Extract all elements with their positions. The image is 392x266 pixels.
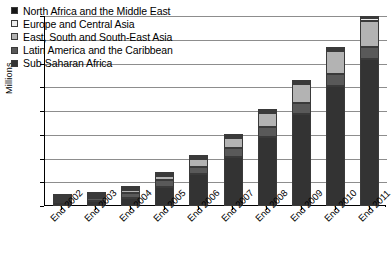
legend-item: Latin America and the Caribbean [11, 44, 173, 57]
y-tick-mark [40, 135, 44, 136]
bar-stack [258, 109, 277, 206]
bar-stack [326, 47, 345, 206]
legend-label: Europe and Central Asia [23, 18, 135, 30]
bar-segment [155, 180, 174, 187]
legend-item: North Africa and the Middle East [11, 4, 173, 17]
legend: North Africa and the Middle EastEurope a… [11, 4, 173, 70]
bar-segment [326, 86, 345, 206]
legend-swatch-icon [11, 20, 18, 27]
bar-segment [360, 59, 379, 206]
bar-stack [292, 80, 311, 206]
bar-segment [326, 74, 345, 86]
legend-label: Latin America and the Caribbean [23, 44, 173, 56]
legend-swatch-icon [11, 47, 18, 54]
bar-segment [258, 127, 277, 137]
bar-segment [189, 159, 208, 166]
legend-label: Sub-Saharan Africa [23, 57, 112, 69]
bar-stack [360, 16, 379, 206]
stacked-bar-chart: Millions 0.01.02.03.04.05.06.07.08.0 End… [0, 0, 392, 266]
y-tick-mark [40, 182, 44, 183]
y-tick-mark [40, 87, 44, 88]
legend-label: East, South and South-East Asia [23, 31, 172, 43]
bar-segment [326, 51, 345, 74]
bar-segment [189, 167, 208, 175]
bar-segment [360, 47, 379, 60]
bar-segment [360, 21, 379, 47]
legend-swatch-icon [11, 33, 18, 40]
y-tick-mark [40, 111, 44, 112]
y-axis-title: Millions [4, 80, 14, 94]
legend-item: East, South and South-East Asia [11, 30, 173, 43]
bar-segment [258, 113, 277, 127]
legend-swatch-icon [11, 60, 18, 67]
legend-item: Sub-Saharan Africa [11, 57, 173, 70]
bar-segment [292, 114, 311, 206]
legend-label: North Africa and the Middle East [23, 5, 170, 17]
bar-segment [292, 103, 311, 114]
y-tick-mark [40, 159, 44, 160]
bar-segment [224, 138, 243, 148]
bar-segment [292, 84, 311, 103]
legend-item: Europe and Central Asia [11, 17, 173, 30]
legend-swatch-icon [11, 7, 18, 14]
bar-segment [224, 148, 243, 157]
y-tick-mark [40, 206, 44, 207]
